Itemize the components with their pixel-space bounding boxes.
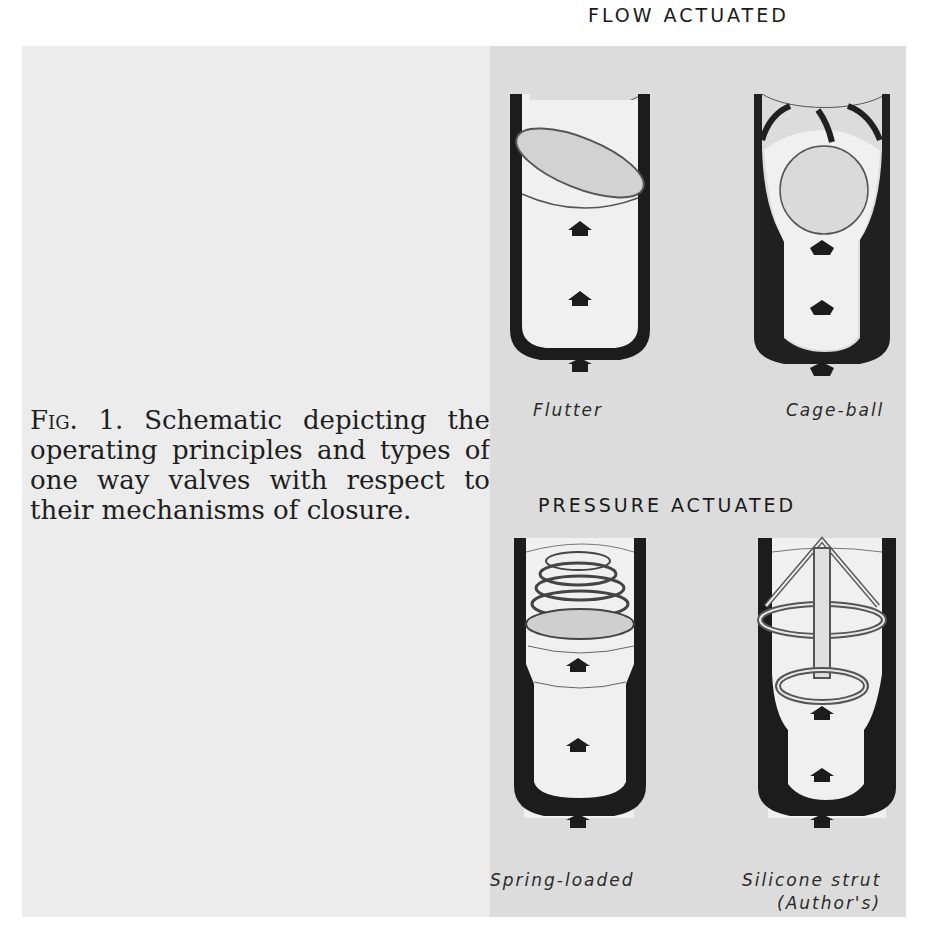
- valve-label-silicone-strut: Silicone strut: [742, 870, 881, 890]
- section-title-flow-actuated: FLOW ACTUATED: [588, 4, 789, 26]
- flutter-valve-icon: [500, 90, 660, 390]
- figure-caption: Fig. 1. Schematic depicting the operatin…: [30, 405, 490, 525]
- cage-ball-valve-icon: [750, 90, 900, 390]
- valve-sublabel-authors: (Author's): [777, 893, 881, 913]
- section-title-pressure-actuated: PRESSURE ACTUATED: [538, 494, 796, 516]
- valve-label-spring-loaded: Spring-loaded: [490, 870, 635, 890]
- figure-panel: FLOW ACTUATED Flutter C: [490, 0, 906, 917]
- valve-label-flutter: Flutter: [533, 400, 603, 420]
- figure-label: Fig. 1.: [30, 405, 123, 435]
- valve-label-cage-ball: Cage-ball: [786, 400, 884, 420]
- silicone-strut-valve-icon: [752, 534, 902, 844]
- spring-loaded-valve-icon: [504, 534, 654, 844]
